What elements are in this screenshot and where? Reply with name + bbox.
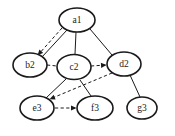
node-f3: f3	[77, 96, 113, 120]
node-g3: g3	[127, 97, 157, 119]
edge-a1-b2-dashed	[38, 28, 62, 55]
graph-svg: a1b2c2d2e3f3g3	[0, 0, 175, 136]
node-b2-label: b2	[25, 60, 35, 70]
edge-a1-d2-solid	[90, 29, 112, 55]
node-f3-label: f3	[91, 103, 99, 113]
node-g3-label: g3	[137, 103, 147, 113]
edge-b2-c2-dashed	[47, 65, 57, 66]
edge-c2-d2-dashed	[91, 65, 106, 66]
node-c2: c2	[57, 55, 91, 80]
edge-a1-c2-solid	[75, 32, 76, 54]
node-a1-label: a1	[73, 15, 82, 25]
node-d2-label: d2	[119, 59, 129, 69]
node-a1: a1	[59, 8, 95, 32]
edge-c2-e3-solid	[46, 79, 66, 98]
edge-d2-g3-solid	[130, 75, 140, 97]
node-b2: b2	[13, 53, 47, 77]
node-d2: d2	[107, 52, 141, 76]
node-e3-label: e3	[33, 103, 42, 113]
node-e3: e3	[20, 96, 54, 120]
edge-a1-b2-solid	[42, 30, 67, 57]
node-c2-label: c2	[70, 62, 79, 72]
diagram-canvas: a1b2c2d2e3f3g3	[0, 0, 175, 136]
